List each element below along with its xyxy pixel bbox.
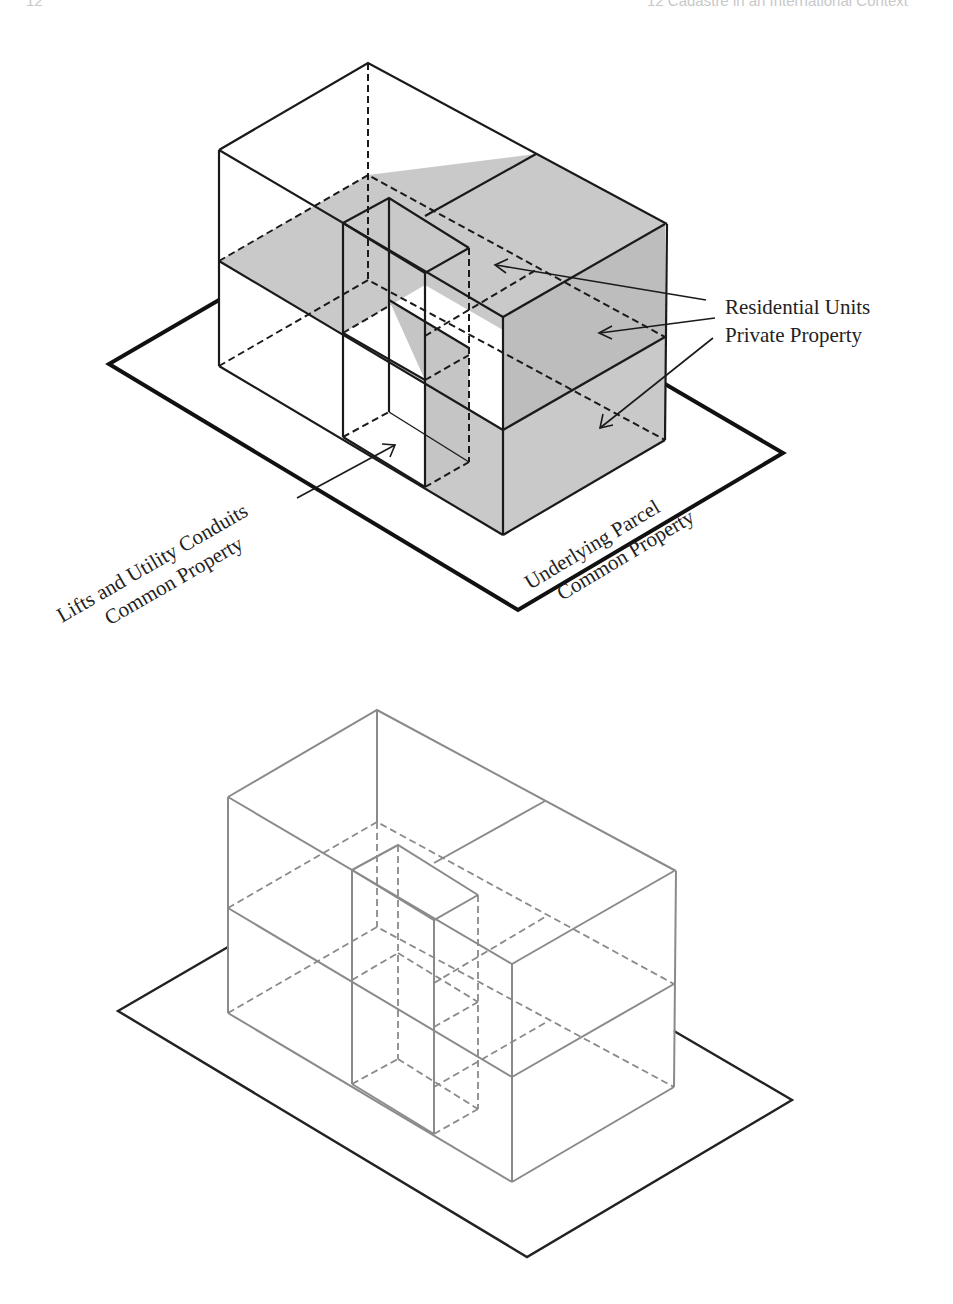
base-plane-lower: [118, 947, 792, 1257]
wireframe-solid-edges: [228, 710, 676, 1182]
wireframe-hidden-edges: [228, 822, 674, 1134]
figure-bottom-wireframe: [0, 0, 953, 1304]
